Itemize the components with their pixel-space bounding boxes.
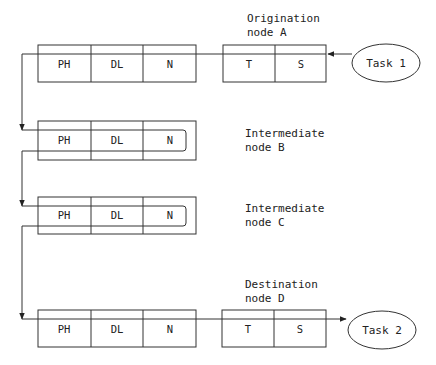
node-a-layer-ph: PH — [58, 58, 71, 70]
node-d-layer-s: S — [297, 323, 303, 335]
node-c-layer-dl: DL — [111, 209, 124, 221]
node-d-layer-ph: PH — [58, 323, 71, 335]
node-a: Origination node A PH DL N T S Task 1 — [38, 12, 420, 82]
flow-path-c-to-d — [22, 206, 186, 319]
node-b-layer-ph: PH — [58, 134, 71, 146]
node-b-layer-n: N — [167, 134, 173, 146]
node-b-layer-dl: DL — [111, 134, 124, 146]
node-c: Intermediate node C PH DL N — [38, 197, 324, 234]
node-c-layer-ph: PH — [58, 209, 71, 221]
node-b-label-line1: Intermediate — [245, 127, 324, 140]
node-c-layer-n: N — [167, 209, 173, 221]
node-a-label-line2: node A — [247, 26, 287, 39]
node-a-layer-dl: DL — [111, 58, 124, 70]
node-a-layer-n: N — [167, 58, 173, 70]
node-d-label-line1: Destination — [245, 278, 318, 291]
task-1-label: Task 1 — [366, 57, 406, 70]
node-d: Destination node D PH DL N T S Task 2 — [38, 278, 416, 349]
flow-path-b-to-c — [22, 130, 186, 206]
node-c-label-line1: Intermediate — [245, 202, 324, 215]
node-d-layer-n: N — [167, 323, 173, 335]
node-d-label-line2: node D — [245, 292, 285, 305]
node-a-layer-s: S — [298, 58, 304, 70]
node-d-layer-t: T — [245, 323, 252, 335]
node-b-label-line2: node B — [245, 141, 285, 154]
node-d-layer-dl: DL — [111, 323, 124, 335]
node-a-layer-t: T — [246, 58, 253, 70]
task-2-label: Task 2 — [362, 324, 402, 337]
node-a-label-line1: Origination — [247, 12, 320, 25]
node-c-label-line2: node C — [245, 216, 285, 229]
message-flow-diagram: Origination node A PH DL N T S Task 1 In… — [0, 0, 436, 365]
node-b: Intermediate node B PH DL N — [38, 121, 324, 160]
